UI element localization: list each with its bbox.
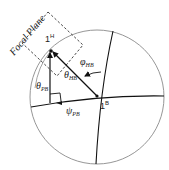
phi-hb-label: φHB xyxy=(80,56,94,68)
head-point xyxy=(49,49,53,53)
horizontal-great-circle xyxy=(31,96,164,107)
phi-hb-arc xyxy=(85,72,101,76)
theta-hb-label: θHB xyxy=(64,69,77,81)
right-angle-marker xyxy=(50,93,61,101)
body-point-label: 1B xyxy=(100,100,109,111)
celestial-sphere-diagram: Focal Plane 1H 1B φHB θHB θPB ψPB xyxy=(0,0,169,170)
psi-pb-arrowhead xyxy=(56,101,62,105)
head-point-label: 1H xyxy=(45,33,54,44)
theta-pb-label: θPB xyxy=(36,80,49,92)
body-point xyxy=(95,94,98,97)
psi-pb-label: ψPB xyxy=(66,105,80,117)
focal-plane-label: Focal Plane xyxy=(6,12,47,58)
